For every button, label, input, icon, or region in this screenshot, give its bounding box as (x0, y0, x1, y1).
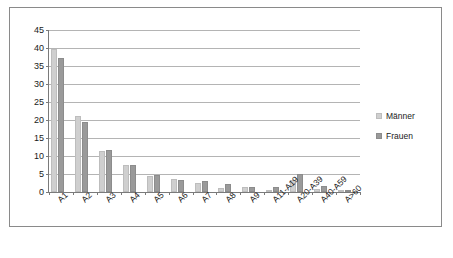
y-axis-tick-label: 35 (34, 62, 44, 71)
x-axis-tick-mark (121, 192, 122, 195)
x-axis-tick-mark (312, 192, 313, 195)
chart-frame: 051015202530354045 A1A2A3A4A5A6A7A8A9A11… (9, 7, 442, 227)
bar-group (193, 30, 217, 192)
y-axis-tick-label: 10 (34, 152, 44, 161)
y-axis-tick-label: 25 (34, 98, 44, 107)
bar-group (169, 30, 193, 192)
legend-swatch-frauen-icon (376, 133, 382, 139)
bar-group (121, 30, 145, 192)
plot-area: 051015202530354045 A1A2A3A4A5A6A7A8A9A11… (48, 30, 360, 193)
bar-group (240, 30, 264, 192)
x-axis-tick-mark (360, 192, 361, 195)
x-axis-category-label: A7 (200, 191, 213, 204)
legend-label-frauen: Frauen (386, 132, 413, 141)
bar-manner (242, 187, 248, 192)
bar-manner (99, 151, 105, 192)
bar-manner (51, 49, 57, 192)
x-axis-category-label: A1 (56, 191, 69, 204)
bar-series-container (49, 30, 360, 192)
bar-group (264, 30, 288, 192)
bar-group (216, 30, 240, 192)
legend-swatch-manner-icon (376, 113, 382, 119)
x-axis-category-label: A6 (176, 191, 189, 204)
legend-label-manner: Männer (386, 112, 415, 121)
bar-manner (195, 183, 201, 192)
bar-manner (75, 116, 81, 192)
legend-item-manner: Männer (376, 112, 415, 121)
y-axis-tick-label: 0 (39, 188, 44, 197)
bar-frauen (106, 150, 112, 192)
x-axis-tick-mark (336, 192, 337, 195)
x-axis-tick-mark (73, 192, 74, 195)
y-axis-tick-label: 40 (34, 44, 44, 53)
y-axis-tick-label: 30 (34, 80, 44, 89)
bar-group (97, 30, 121, 192)
x-axis-tick-mark (264, 192, 265, 195)
bar-group (336, 30, 360, 192)
x-axis-tick-mark (49, 192, 50, 195)
bar-group (49, 30, 73, 192)
bar-group (288, 30, 312, 192)
bar-manner (147, 176, 153, 192)
bar-manner (171, 179, 177, 192)
y-axis-tick-label: 15 (34, 134, 44, 143)
y-axis-tick-label: 20 (34, 116, 44, 125)
chart-legend: Männer Frauen (376, 112, 415, 151)
x-axis-tick-mark (145, 192, 146, 195)
y-axis-tick-label: 5 (39, 170, 44, 179)
x-axis-category-label: A5 (152, 191, 165, 204)
x-axis-category-label: A9 (248, 191, 261, 204)
bar-frauen (82, 122, 88, 192)
bar-manner (266, 190, 272, 192)
x-axis-tick-mark (240, 192, 241, 195)
x-axis-category-label: A2 (80, 191, 93, 204)
x-axis-category-label: A8 (224, 191, 237, 204)
legend-item-frauen: Frauen (376, 132, 415, 141)
bar-manner (123, 165, 129, 192)
bar-manner (218, 188, 224, 192)
bar-group (73, 30, 97, 192)
x-axis-category-label: A3 (104, 191, 117, 204)
x-axis-tick-mark (216, 192, 217, 195)
bar-group (145, 30, 169, 192)
x-axis-tick-mark (97, 192, 98, 195)
y-axis-tick-label: 45 (34, 26, 44, 35)
bar-frauen (58, 58, 64, 192)
bar-group (312, 30, 336, 192)
x-axis-tick-mark (288, 192, 289, 195)
x-axis-tick-mark (169, 192, 170, 195)
x-axis-tick-mark (193, 192, 194, 195)
x-axis-category-label: A4 (128, 191, 141, 204)
bar-frauen (130, 165, 136, 192)
